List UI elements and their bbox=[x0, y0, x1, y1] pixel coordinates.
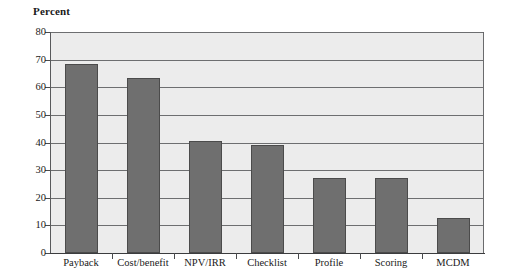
x-tick-label: Profile bbox=[298, 256, 360, 270]
bar-chart: Percent 01020304050607080 PaybackCost/be… bbox=[0, 0, 510, 272]
y-tick-label: 80 bbox=[4, 27, 46, 37]
bar bbox=[375, 178, 408, 253]
bars-group bbox=[50, 32, 484, 253]
x-tick-label: Checklist bbox=[236, 256, 298, 270]
y-tick-label: 30 bbox=[4, 165, 46, 175]
bar bbox=[251, 145, 284, 253]
y-tick-label: 50 bbox=[4, 110, 46, 120]
bar bbox=[189, 141, 222, 253]
y-axis: 01020304050607080 bbox=[0, 0, 46, 272]
x-tick-label: Payback bbox=[50, 256, 112, 270]
y-tick-label: 70 bbox=[4, 55, 46, 65]
bar bbox=[437, 218, 470, 253]
bar bbox=[313, 178, 346, 253]
y-tick-label: 10 bbox=[4, 220, 46, 230]
x-axis-labels: PaybackCost/benefitNPV/IRRChecklistProfi… bbox=[50, 256, 484, 272]
x-tick-label: Scoring bbox=[360, 256, 422, 270]
bar bbox=[65, 64, 98, 253]
x-tick-label: NPV/IRR bbox=[174, 256, 236, 270]
y-tick-label: 60 bbox=[4, 82, 46, 92]
y-tick-label: 20 bbox=[4, 193, 46, 203]
x-tick-label: Cost/benefit bbox=[112, 256, 174, 270]
y-tick-label: 0 bbox=[4, 248, 46, 258]
x-tick-label: MCDM bbox=[422, 256, 484, 270]
bar bbox=[127, 78, 160, 253]
y-tick-label: 40 bbox=[4, 138, 46, 148]
